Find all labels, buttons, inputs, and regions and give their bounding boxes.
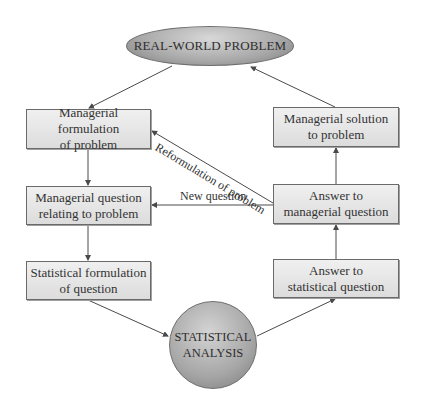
box-line: managerial question	[283, 204, 388, 220]
analysis-label-line2: ANALYSIS	[183, 345, 244, 361]
box-line: Answer to	[288, 263, 384, 279]
box-line: Answer to	[283, 188, 388, 204]
box-line: Managerial formulation	[27, 105, 150, 137]
real-world-problem-label: REAL-WORLD PROBLEM	[134, 38, 286, 54]
managerial-answer-box: Answer tomanagerial question	[273, 184, 399, 224]
box-line: Managerial solution	[284, 111, 388, 127]
box-line: Managerial question	[35, 190, 142, 206]
box-line: to problem	[284, 127, 388, 143]
arrow-analysis-to-stat-answer	[257, 299, 335, 336]
arrow-problem-to-formulation	[89, 66, 172, 108]
managerial-question-box: Managerial questionrelating to problem	[26, 186, 151, 225]
arrow-solution-to-problem	[251, 67, 335, 107]
box-line: of question	[31, 281, 147, 297]
statistical-formulation-box: Statistical formulationof question	[26, 261, 151, 300]
managerial-solution-box: Managerial solutionto problem	[273, 107, 399, 147]
new-question-label: New question	[180, 189, 246, 204]
arrow-stat-formulation-to-analysis	[88, 300, 168, 336]
statistical-answer-box: Answer tostatistical question	[273, 259, 399, 298]
box-line: relating to problem	[35, 206, 142, 222]
box-line: of problem	[27, 137, 150, 153]
statistical-analysis-node: STATISTICAL ANALYSIS	[169, 301, 257, 389]
real-world-problem-node: REAL-WORLD PROBLEM	[126, 26, 294, 66]
box-line: statistical question	[288, 279, 384, 295]
managerial-formulation-box: Managerial formulationof problem	[26, 109, 151, 149]
box-line: Statistical formulation	[31, 265, 147, 281]
analysis-label-line1: STATISTICAL	[175, 329, 252, 345]
